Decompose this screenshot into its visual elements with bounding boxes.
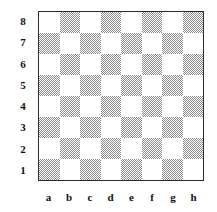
board-square-e5: [121, 75, 142, 96]
board-square-g5: [162, 75, 183, 96]
board-square-h3: [183, 117, 204, 138]
board-square-b2: [60, 138, 81, 159]
board-square-a1: [39, 159, 60, 180]
rank-label-7: 7: [12, 32, 34, 53]
board-square-f1: [142, 159, 163, 180]
board-square-e2: [121, 138, 142, 159]
board-square-a7: [39, 33, 60, 54]
file-label-row: a b c d e f g h: [38, 188, 204, 206]
board-square-d1: [101, 159, 122, 180]
board-square-c1: [80, 159, 101, 180]
file-label-b: b: [59, 188, 80, 206]
board-square-b4: [60, 96, 81, 117]
rank-label-4: 4: [12, 96, 34, 117]
chessboard-grid: [39, 12, 203, 180]
board-square-c8: [80, 12, 101, 33]
board-square-d7: [101, 33, 122, 54]
board-square-f3: [142, 117, 163, 138]
board-square-a6: [39, 54, 60, 75]
board-square-a4: [39, 96, 60, 117]
board-square-f4: [142, 96, 163, 117]
board-square-c4: [80, 96, 101, 117]
board-square-a5: [39, 75, 60, 96]
board-square-f6: [142, 54, 163, 75]
file-label-e: e: [121, 188, 142, 206]
board-square-h4: [183, 96, 204, 117]
board-square-g3: [162, 117, 183, 138]
board-square-d8: [101, 12, 122, 33]
file-label-f: f: [142, 188, 163, 206]
rank-label-5: 5: [12, 75, 34, 96]
board-square-d5: [101, 75, 122, 96]
board-square-e4: [121, 96, 142, 117]
chessboard: [38, 11, 204, 181]
rank-label-6: 6: [12, 54, 34, 75]
file-label-d: d: [100, 188, 121, 206]
board-square-d3: [101, 117, 122, 138]
board-square-c7: [80, 33, 101, 54]
board-square-g7: [162, 33, 183, 54]
board-square-e6: [121, 54, 142, 75]
rank-label-3: 3: [12, 117, 34, 138]
board-square-f8: [142, 12, 163, 33]
file-label-h: h: [183, 188, 204, 206]
board-square-h5: [183, 75, 204, 96]
board-square-a2: [39, 138, 60, 159]
board-square-h7: [183, 33, 204, 54]
board-square-e7: [121, 33, 142, 54]
file-label-g: g: [163, 188, 184, 206]
board-square-d4: [101, 96, 122, 117]
board-square-f7: [142, 33, 163, 54]
file-label-a: a: [38, 188, 59, 206]
board-square-f5: [142, 75, 163, 96]
board-square-g4: [162, 96, 183, 117]
board-square-c3: [80, 117, 101, 138]
board-square-d6: [101, 54, 122, 75]
board-square-b8: [60, 12, 81, 33]
board-square-e8: [121, 12, 142, 33]
board-square-d2: [101, 138, 122, 159]
chessboard-diagram: 8 7 6 5 4 3 2 1 a b c d e f g h: [0, 0, 217, 212]
board-square-b3: [60, 117, 81, 138]
board-square-a3: [39, 117, 60, 138]
board-square-h6: [183, 54, 204, 75]
rank-label-8: 8: [12, 11, 34, 32]
board-square-h2: [183, 138, 204, 159]
board-square-g1: [162, 159, 183, 180]
board-square-b6: [60, 54, 81, 75]
board-square-b5: [60, 75, 81, 96]
rank-label-1: 1: [12, 160, 34, 181]
board-square-b1: [60, 159, 81, 180]
board-square-c6: [80, 54, 101, 75]
board-square-h1: [183, 159, 204, 180]
rank-label-column: 8 7 6 5 4 3 2 1: [12, 11, 34, 181]
rank-label-2: 2: [12, 139, 34, 160]
board-square-a8: [39, 12, 60, 33]
board-square-h8: [183, 12, 204, 33]
board-square-c5: [80, 75, 101, 96]
board-square-e1: [121, 159, 142, 180]
board-square-g8: [162, 12, 183, 33]
board-square-c2: [80, 138, 101, 159]
board-square-g6: [162, 54, 183, 75]
board-square-b7: [60, 33, 81, 54]
board-square-f2: [142, 138, 163, 159]
board-square-g2: [162, 138, 183, 159]
board-square-e3: [121, 117, 142, 138]
file-label-c: c: [80, 188, 101, 206]
